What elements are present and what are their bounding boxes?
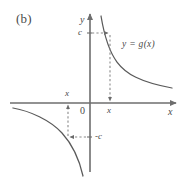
x-point-label-left: x xyxy=(65,89,69,98)
value-label-c: c xyxy=(78,28,82,37)
value-label-negative-c: -c xyxy=(95,132,102,141)
curve-equation-label: y = g(x) xyxy=(122,40,155,50)
curve-right-branch xyxy=(101,16,172,88)
x-axis-label: x xyxy=(168,107,172,117)
figure-panel-b: (b) y x 0 c -c x x y = g(x) xyxy=(0,0,184,180)
y-axis-label: y xyxy=(80,15,84,25)
graph-canvas xyxy=(0,0,184,180)
panel-label: (b) xyxy=(16,12,32,25)
x-point-label-right: x xyxy=(107,106,111,115)
curve-left-branch xyxy=(13,108,83,176)
origin-label: 0 xyxy=(80,106,85,116)
